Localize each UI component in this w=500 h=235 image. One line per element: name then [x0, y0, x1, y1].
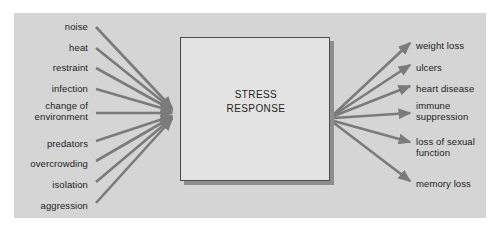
output-arrow-weight-loss: [334, 43, 410, 114]
stress-response-box: STRESS RESPONSE: [180, 37, 330, 181]
input-arrow-restraint: [96, 68, 172, 110]
input-label-aggression: aggression: [41, 200, 88, 211]
input-arrow-aggression: [96, 119, 172, 203]
input-arrow-group: [96, 27, 172, 203]
output-label-memory-loss: memory loss: [416, 178, 471, 189]
input-label-noise: noise: [65, 21, 88, 32]
input-label-restraint: restraint: [53, 62, 88, 73]
input-label-predators: predators: [47, 138, 88, 149]
input-label-isolation: isolation: [52, 179, 88, 190]
input-arrow-noise: [96, 27, 172, 108]
output-label-weight-loss: weight loss: [416, 40, 464, 51]
input-label-overcrowding: overcrowding: [30, 158, 88, 169]
input-label-infection: infection: [52, 83, 88, 94]
input-label-change-of-environment: change of environment: [35, 100, 88, 122]
output-label-heart-disease: heart disease: [416, 83, 474, 94]
output-arrow-group: [334, 43, 410, 181]
output-arrow-immune-suppression: [334, 113, 410, 118]
output-label-loss-of-sexual-function: loss of sexual function: [416, 136, 475, 158]
stress-response-box-label: STRESS RESPONSE: [181, 88, 331, 116]
output-label-ulcers: ulcers: [416, 62, 442, 73]
output-label-immune-suppression: immune suppression: [416, 100, 468, 122]
input-label-heat: heat: [69, 42, 88, 53]
input-arrow-overcrowding: [96, 117, 172, 161]
stress-response-diagram: STRESS RESPONSE noise heat restraint inf…: [0, 0, 500, 235]
